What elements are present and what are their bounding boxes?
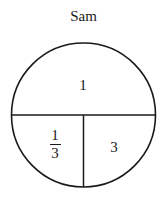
fraction-numerator: 1 — [43, 128, 67, 143]
section-bottom-right-label: 3 — [102, 139, 126, 155]
section-bottom-left-fraction: 1 3 — [43, 128, 67, 161]
section-top-label: 1 — [71, 77, 95, 93]
fraction-denominator: 3 — [43, 146, 67, 161]
circle-diagram — [0, 0, 167, 203]
